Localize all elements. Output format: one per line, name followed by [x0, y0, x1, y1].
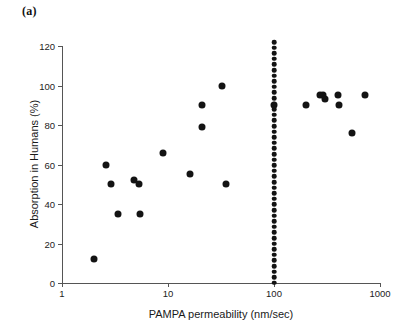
- threshold-line-dot: [272, 51, 277, 56]
- threshold-line-dot: [272, 157, 277, 162]
- threshold-line-dot: [272, 79, 277, 84]
- threshold-line-dot: [272, 241, 277, 246]
- threshold-line-dot: [272, 213, 277, 218]
- threshold-line-dot: [272, 281, 277, 286]
- data-point: [218, 82, 225, 89]
- data-point: [108, 181, 115, 188]
- data-point: [302, 102, 309, 109]
- x-tick-label: 1: [59, 288, 64, 299]
- threshold-line-dot: [272, 68, 277, 73]
- threshold-line-dot: [272, 174, 277, 179]
- threshold-line-dot: [272, 141, 277, 146]
- threshold-line-dot: [272, 275, 277, 280]
- data-point: [137, 210, 144, 217]
- scatter-plot: 1101001000 020406080100120 PAMPA permeab…: [0, 0, 413, 333]
- threshold-line-dot: [272, 180, 277, 185]
- threshold-line-dot: [272, 85, 277, 90]
- threshold-line-dot: [272, 208, 277, 213]
- data-point: [199, 102, 206, 109]
- x-axis-line: [62, 283, 380, 284]
- threshold-line-dot: [272, 96, 277, 101]
- threshold-line-dot: [272, 230, 277, 235]
- threshold-line-dot: [272, 225, 277, 230]
- threshold-line-dot: [272, 163, 277, 168]
- data-point: [271, 102, 278, 109]
- x-tick: [380, 283, 381, 287]
- y-tick: [58, 283, 62, 284]
- data-point: [135, 181, 142, 188]
- y-tick: [58, 165, 62, 166]
- threshold-line-dot: [272, 73, 277, 78]
- y-axis-line: [62, 46, 63, 284]
- threshold-line-dot: [272, 185, 277, 190]
- threshold-line-dot: [272, 152, 277, 157]
- x-tick-label: 100: [266, 288, 282, 299]
- y-tick: [58, 46, 62, 47]
- data-point: [115, 210, 122, 217]
- threshold-line-dot: [272, 90, 277, 95]
- data-point: [335, 102, 342, 109]
- threshold-line-dot: [272, 146, 277, 151]
- data-point: [222, 181, 229, 188]
- threshold-line-dot: [272, 191, 277, 196]
- data-point: [102, 161, 109, 168]
- y-tick: [58, 244, 62, 245]
- threshold-line-dot: [272, 197, 277, 202]
- threshold-line-dot: [272, 62, 277, 67]
- x-tick-label: 10: [163, 288, 174, 299]
- data-point: [186, 171, 193, 178]
- y-axis-title: Absorption in Humans (%): [28, 44, 40, 284]
- data-point: [349, 129, 356, 136]
- threshold-line-dot: [272, 269, 277, 274]
- threshold-line-dot: [272, 219, 277, 224]
- threshold-line-dot: [272, 45, 277, 50]
- threshold-line-dot: [272, 40, 277, 45]
- threshold-line-dot: [272, 264, 277, 269]
- data-point: [160, 149, 167, 156]
- data-point: [334, 92, 341, 99]
- threshold-line-dot: [272, 253, 277, 258]
- data-point: [199, 123, 206, 130]
- data-point: [321, 96, 328, 103]
- threshold-line-dot: [272, 118, 277, 123]
- threshold-line-dot: [272, 247, 277, 252]
- threshold-line-dot: [272, 57, 277, 62]
- figure-panel-a: (a) 1101001000 020406080100120 PAMPA per…: [0, 0, 413, 333]
- threshold-line-dot: [272, 236, 277, 241]
- x-tick-label: 1000: [369, 288, 390, 299]
- x-tick: [62, 283, 63, 287]
- threshold-line-dot: [272, 202, 277, 207]
- data-point: [90, 256, 97, 263]
- threshold-line-dot: [272, 129, 277, 134]
- y-tick: [58, 86, 62, 87]
- threshold-line-dot: [272, 169, 277, 174]
- threshold-line-dot: [272, 124, 277, 129]
- x-axis-title: PAMPA permeability (nm/sec): [62, 308, 380, 320]
- x-tick: [168, 283, 169, 287]
- threshold-line-dot: [272, 258, 277, 263]
- y-tick: [58, 125, 62, 126]
- threshold-line-dot: [272, 113, 277, 118]
- y-tick: [58, 204, 62, 205]
- data-point: [361, 92, 368, 99]
- threshold-line-dot: [272, 135, 277, 140]
